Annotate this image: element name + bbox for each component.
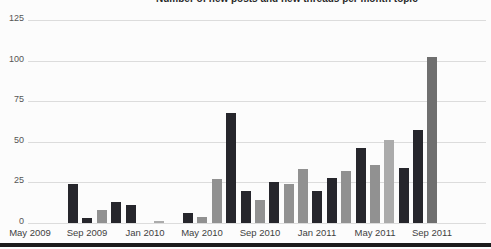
- y-axis-tick-label: 25: [0, 175, 24, 185]
- bar-may-2011: [370, 165, 380, 223]
- gridline-y-100: [28, 61, 486, 62]
- x-axis-tick-label: Sep 2010: [230, 227, 290, 238]
- bar-feb-2010: [154, 221, 164, 223]
- bar-may-2010: [197, 217, 207, 223]
- chart-title-clipped: Number of new posts and new threads per …: [156, 0, 418, 4]
- y-axis-tick-label: 0: [0, 216, 24, 226]
- y-axis-tick-label: 125: [0, 13, 24, 23]
- bar-apr-2010: [183, 213, 193, 223]
- bar-aug-2009: [68, 184, 78, 223]
- y-axis-tick-label: 50: [0, 135, 24, 145]
- bar-jul-2010: [226, 113, 236, 223]
- bar-sep-2010: [255, 200, 265, 223]
- bar-dec-2010: [298, 169, 308, 223]
- bar-apr-2011: [356, 148, 366, 223]
- x-axis-tick-label: Sep 2009: [57, 227, 117, 238]
- bar-dec-2009: [126, 205, 136, 223]
- bar-aug-2011: [413, 130, 423, 223]
- bar-oct-2009: [97, 210, 107, 223]
- bottom-border-bar: [0, 243, 491, 247]
- x-axis-tick-label: Sep 2011: [402, 227, 462, 238]
- bar-sep-2009: [82, 218, 92, 223]
- bar-jun-2011: [384, 140, 394, 223]
- y-axis-tick-label: 100: [0, 54, 24, 64]
- bar-aug-2010: [241, 191, 251, 223]
- bar-jun-2010: [212, 179, 222, 223]
- bar-sep-2011: [427, 57, 437, 223]
- posts-per-month-bar-chart: Number of new posts and new threads per …: [0, 0, 491, 249]
- x-axis-tick-label: May 2010: [172, 227, 232, 238]
- bar-nov-2010: [284, 184, 294, 223]
- gridline-y-125: [28, 20, 486, 21]
- bar-nov-2009: [111, 202, 121, 223]
- x-axis-tick-label: Jan 2010: [115, 227, 175, 238]
- gridline-y-0: [28, 223, 486, 224]
- bar-oct-2010: [269, 182, 279, 223]
- bar-mar-2011: [341, 171, 351, 223]
- x-axis-tick-label: May 2011: [345, 227, 405, 238]
- bar-feb-2011: [327, 178, 337, 223]
- bar-jan-2011: [312, 191, 322, 223]
- x-axis-tick-label: Jan 2011: [287, 227, 347, 238]
- x-axis-tick-label: May 2009: [0, 227, 60, 238]
- bar-jul-2011: [399, 168, 409, 223]
- y-axis-tick-label: 75: [0, 94, 24, 104]
- gridline-y-75: [28, 101, 486, 102]
